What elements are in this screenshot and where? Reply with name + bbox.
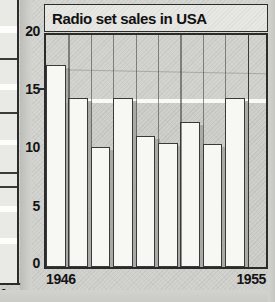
- chart-title-box: Radio set sales in USA: [44, 4, 268, 32]
- year-separator: [113, 33, 114, 267]
- bar-1953[interactable]: [203, 144, 223, 267]
- bar-1951[interactable]: [158, 143, 178, 267]
- year-separator: [225, 33, 226, 267]
- y-tick-label-0: 0: [33, 256, 40, 270]
- year-separator: [203, 33, 204, 267]
- year-separator: [158, 33, 159, 267]
- bar-chart: Radio set sales in USA: [44, 4, 268, 270]
- bar-1947[interactable]: [68, 98, 88, 267]
- x-tick-label-first: 1946: [46, 271, 76, 287]
- year-separator: [248, 33, 249, 267]
- year-separator: [68, 33, 69, 267]
- year-separator: [136, 33, 137, 267]
- page-right-shade: [268, 0, 275, 302]
- bar-1950[interactable]: [136, 136, 156, 267]
- bar-1948[interactable]: [91, 147, 111, 267]
- y-tick-label-10: 10: [25, 140, 40, 154]
- page-bottom-shade: [0, 290, 275, 302]
- y-tick-label-20: 20: [25, 24, 40, 38]
- bar-1954[interactable]: [225, 98, 245, 267]
- bar-1952[interactable]: [180, 122, 200, 267]
- year-separator: [180, 33, 181, 267]
- chart-title: Radio set sales in USA: [52, 10, 207, 27]
- y-tick-label-5: 5: [33, 199, 40, 213]
- bars-container: [46, 33, 268, 267]
- plot-area: [44, 33, 268, 269]
- x-tick-label-last: 1955: [236, 271, 266, 287]
- y-axis: 20 15 10 5 0: [0, 29, 44, 265]
- bar-1946[interactable]: [46, 65, 66, 267]
- year-separator: [91, 33, 92, 267]
- bar-1949[interactable]: [113, 98, 133, 267]
- adjacent-chart-baseline: [0, 283, 21, 285]
